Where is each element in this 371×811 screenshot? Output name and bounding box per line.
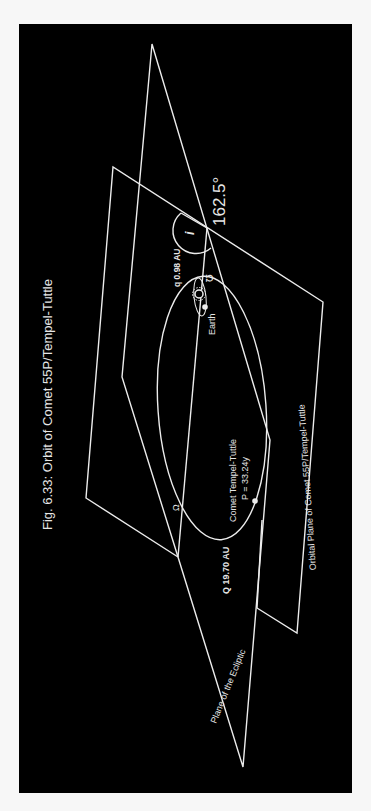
perihelion-label: q 0.98 AU [172,249,182,287]
orbital-plane [86,167,323,633]
ascending-node-symbol: Ω [171,504,181,511]
orbital-plane-label: Orbital Plane of Comet 55P/Tempel-Tuttle [296,404,318,571]
earth-dot [202,304,208,310]
comet-name-label: Comet Tempel-Tuttle [228,439,238,522]
comet-period-label: P = 33.24y [240,456,250,500]
ecliptic-plane [122,44,270,767]
descending-node-symbol: ℧ [204,274,215,282]
orbit-diagram: Fig. 6.33: Orbit of Comet 55P/Tempel-Tut… [0,0,371,811]
earth-label: Earth [207,313,217,335]
aphelion-label: Q 19.70 AU [221,547,231,594]
ecliptic-plane-label: Plane of the Ecliptic [209,647,248,724]
figure-title: Fig. 6.33: Orbit of Comet 55P/Tempel-Tut… [40,279,55,530]
inclination-value: 162.5° [210,177,229,226]
inclination-symbol: i [182,231,197,235]
orbital-plane-inner-edge [257,520,262,608]
comet-dot [252,498,258,504]
